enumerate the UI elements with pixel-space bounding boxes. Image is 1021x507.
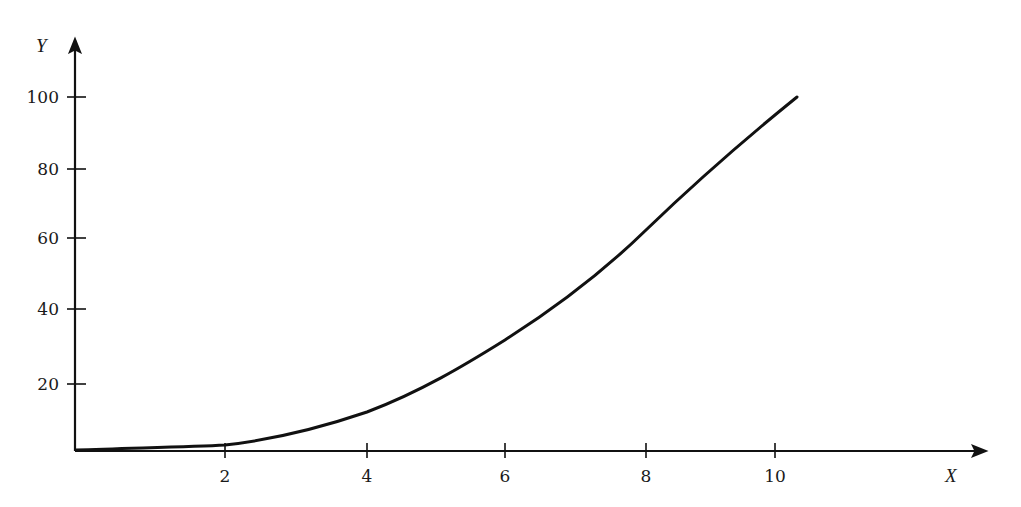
- y-axis-label: Y: [36, 35, 49, 56]
- y-tick-label-80: 80: [37, 159, 59, 179]
- x-tick-label-6: 6: [500, 466, 511, 486]
- x-tick-label-8: 8: [641, 466, 652, 486]
- y-tick-label-60: 60: [37, 228, 59, 248]
- x-tick-label-10: 10: [764, 466, 786, 486]
- y-tick-label-100: 100: [27, 87, 59, 107]
- x-axis-label: X: [944, 465, 958, 486]
- y-tick-label-40: 40: [37, 299, 59, 319]
- chart-canvas: Y X 100 80 60 40 20 2 4 6 8 10: [0, 0, 1021, 507]
- y-ticks: [67, 97, 86, 384]
- y-tick-label-20: 20: [37, 374, 59, 394]
- x-tick-label-4: 4: [362, 466, 373, 486]
- data-curve: [76, 97, 797, 450]
- x-tick-label-2: 2: [220, 466, 231, 486]
